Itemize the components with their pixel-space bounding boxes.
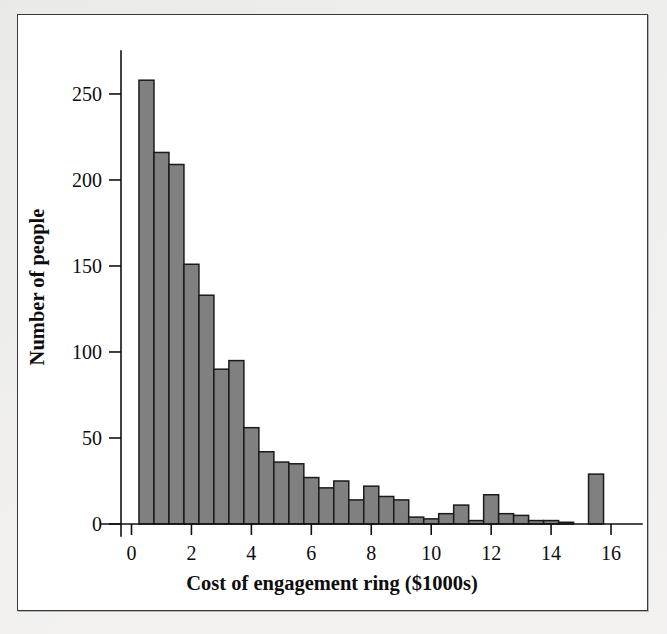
histogram-bar <box>184 264 199 524</box>
histogram-bar <box>199 295 214 524</box>
histogram-bar <box>274 462 289 524</box>
bars-group <box>139 80 604 524</box>
histogram-bar <box>499 514 514 524</box>
y-tick-label: 150 <box>72 255 102 277</box>
x-tick-label: 16 <box>601 542 621 564</box>
histogram-bar <box>349 500 364 524</box>
x-tick-labels: 0246810121416 <box>126 542 621 564</box>
histogram-bar <box>394 500 409 524</box>
x-axis-title: Cost of engagement ring ($1000s) <box>186 572 478 595</box>
y-tick-label: 250 <box>72 83 102 105</box>
x-tick-label: 6 <box>306 542 316 564</box>
y-tick-label: 200 <box>72 169 102 191</box>
histogram-bar <box>514 515 529 524</box>
x-tick-label: 14 <box>541 542 561 564</box>
histogram-bar <box>229 361 244 524</box>
y-tick-label: 100 <box>72 341 102 363</box>
histogram-bar <box>379 496 394 524</box>
y-tick-label: 0 <box>92 513 102 535</box>
histogram-bar <box>334 481 349 524</box>
y-axis-title: Number of people <box>26 209 49 366</box>
figure-frame: 0246810121416 050100150200250 Cost of en… <box>17 14 648 611</box>
chart-canvas: 0246810121416 050100150200250 Cost of en… <box>18 15 646 609</box>
histogram-bar <box>439 514 454 524</box>
histogram-bar <box>289 464 304 524</box>
histogram-bar <box>319 488 334 524</box>
histogram-bar <box>409 517 424 524</box>
x-tick-label: 12 <box>481 542 501 564</box>
histogram-bar <box>589 474 604 524</box>
page-background: 0246810121416 050100150200250 Cost of en… <box>0 0 667 634</box>
x-tick-label: 8 <box>366 542 376 564</box>
histogram-bar <box>139 80 154 524</box>
histogram-bar <box>454 505 469 524</box>
histogram-bar <box>304 478 319 524</box>
histogram-bar <box>484 495 499 524</box>
y-tick-labels: 050100150200250 <box>72 83 102 535</box>
histogram-bar <box>154 152 169 524</box>
x-tick-label: 2 <box>186 542 196 564</box>
y-tick-label: 50 <box>82 427 102 449</box>
x-tick-label: 4 <box>246 542 256 564</box>
histogram-bar <box>244 428 259 524</box>
histogram-bar <box>259 452 274 524</box>
x-tick-label: 10 <box>421 542 441 564</box>
histogram-bar <box>364 486 379 524</box>
histogram-bar <box>214 369 229 524</box>
histogram-bar <box>169 164 184 524</box>
x-tick-label: 0 <box>126 542 136 564</box>
histogram-chart: 0246810121416 050100150200250 Cost of en… <box>18 15 647 610</box>
